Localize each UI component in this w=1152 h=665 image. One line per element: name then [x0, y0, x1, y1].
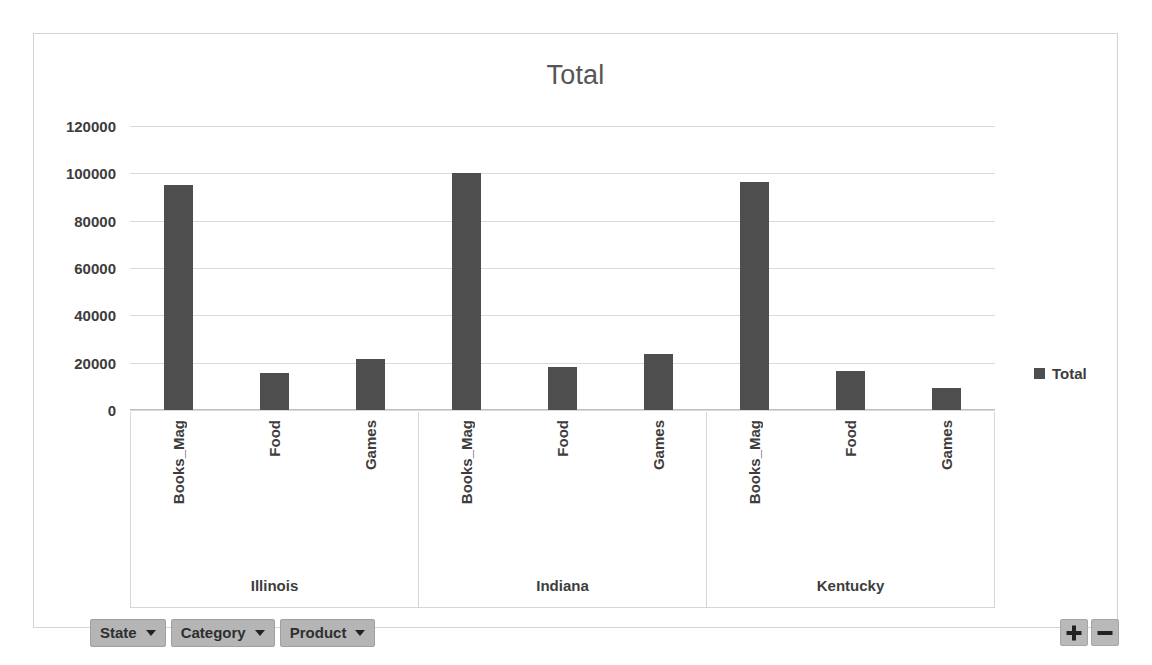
bar-slot — [226, 126, 322, 410]
y-axis-tick-label: 100000 — [66, 165, 116, 182]
category-tick-text: Books_Mag — [746, 420, 763, 504]
category-tick-label: Food — [515, 412, 611, 563]
group-axis-label: Illinois — [131, 563, 418, 607]
bar-slot — [514, 126, 610, 410]
expand-field-button[interactable] — [1060, 619, 1088, 646]
chevron-down-icon[interactable] — [146, 630, 156, 636]
group-axis-label: Kentucky — [707, 563, 994, 607]
bar[interactable] — [548, 367, 577, 410]
bar-slot — [322, 126, 418, 410]
bar[interactable] — [932, 388, 961, 410]
category-label-band: Books_MagFoodGamesIllinoisBooks_MagFoodG… — [130, 412, 995, 608]
category-tick-label: Games — [322, 412, 418, 563]
pivot-field-button-product[interactable]: Product — [280, 619, 376, 647]
bar-slot — [707, 126, 803, 410]
chart-title: Total — [34, 60, 1117, 91]
pivot-field-button-label: State — [100, 624, 137, 641]
category-tick-label: Food — [227, 412, 323, 563]
bar-series-container — [130, 126, 995, 410]
chart-legend[interactable]: Total — [1034, 365, 1087, 382]
pivot-field-button-state[interactable]: State — [90, 619, 166, 647]
pivot-chart-frame[interactable]: Total 020000400006000080000100000120000 … — [33, 33, 1118, 628]
category-tick-label: Books_Mag — [419, 412, 515, 563]
category-tick-label: Books_Mag — [131, 412, 227, 563]
category-tick-text: Games — [650, 420, 667, 470]
category-tick-text: Books_Mag — [170, 420, 187, 504]
legend-label: Total — [1052, 365, 1087, 382]
category-tick-text: Games — [362, 420, 379, 470]
pivot-field-button-category[interactable]: Category — [171, 619, 275, 647]
bar-slot — [130, 126, 226, 410]
category-tick-label: Games — [610, 412, 706, 563]
group-axis-label: Indiana — [419, 563, 706, 607]
category-items: Books_MagFoodGames — [419, 412, 706, 563]
bar[interactable] — [740, 182, 769, 410]
bar[interactable] — [164, 185, 193, 410]
category-tick-text: Food — [842, 420, 859, 457]
y-axis-tick-label: 40000 — [74, 307, 116, 324]
category-tick-text: Books_Mag — [458, 420, 475, 504]
y-axis-tick-label: 60000 — [74, 260, 116, 277]
y-axis-tick-label: 0 — [108, 402, 116, 419]
chevron-down-icon[interactable] — [255, 630, 265, 636]
y-axis-tick-label: 20000 — [74, 354, 116, 371]
bar[interactable] — [260, 373, 289, 410]
bar-group — [418, 126, 706, 410]
category-group: Books_MagFoodGamesIndiana — [418, 412, 706, 607]
category-tick-text: Games — [938, 420, 955, 470]
category-tick-text: Food — [554, 420, 571, 457]
y-axis-tick-label: 80000 — [74, 212, 116, 229]
minus-icon — [1098, 631, 1113, 635]
pivot-field-button-label: Product — [290, 624, 347, 641]
plot-area[interactable]: 020000400006000080000100000120000 — [130, 126, 995, 410]
legend-swatch-icon — [1034, 368, 1045, 379]
category-items: Books_MagFoodGames — [131, 412, 418, 563]
category-tick-label: Games — [898, 412, 994, 563]
category-group: Books_MagFoodGamesIllinois — [131, 412, 418, 607]
bar-slot — [611, 126, 707, 410]
bar[interactable] — [836, 371, 865, 410]
plus-icon-vertical — [1072, 625, 1076, 640]
category-items: Books_MagFoodGames — [707, 412, 994, 563]
bar[interactable] — [452, 173, 481, 410]
bar[interactable] — [644, 354, 673, 410]
expand-collapse-controls — [1060, 619, 1119, 646]
gridline — [130, 410, 995, 411]
bar-slot — [899, 126, 995, 410]
category-tick-text: Food — [266, 420, 283, 457]
bar-slot — [803, 126, 899, 410]
bar-group — [707, 126, 995, 410]
pivot-field-button-label: Category — [181, 624, 246, 641]
bar[interactable] — [356, 359, 385, 410]
category-tick-label: Books_Mag — [707, 412, 803, 563]
category-group: Books_MagFoodGamesKentucky — [706, 412, 994, 607]
bar-group — [130, 126, 418, 410]
chevron-down-icon[interactable] — [355, 630, 365, 636]
collapse-field-button[interactable] — [1091, 619, 1119, 646]
pivot-field-buttons: StateCategoryProduct — [90, 619, 375, 647]
category-tick-label: Food — [803, 412, 899, 563]
bar-slot — [418, 126, 514, 410]
y-axis-tick-label: 120000 — [66, 118, 116, 135]
